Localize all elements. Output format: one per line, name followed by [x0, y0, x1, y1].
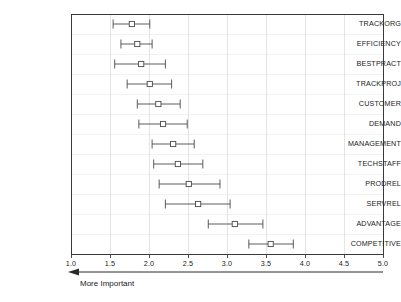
- data-point-group: [165, 200, 230, 209]
- y-axis-category-label: SERVREL: [335, 200, 401, 207]
- x-axis-tick-label: 1.0: [66, 260, 76, 267]
- x-axis-tick-label: 2.5: [183, 260, 193, 267]
- y-axis-category-label: TRACKPROJ: [335, 80, 401, 87]
- data-point-group: [159, 180, 220, 189]
- mean-marker: [196, 201, 201, 206]
- mean-marker: [129, 21, 134, 26]
- more-important-caption: More Important: [80, 280, 134, 288]
- x-axis-tick-label: 5.0: [378, 260, 388, 267]
- data-point-group: [113, 20, 150, 29]
- error-bar-chart: TRACKORGEFFICIENCYBESTPRACTTRACKPROJCUST…: [0, 0, 401, 302]
- y-axis-category-label: TRACKORG: [335, 20, 401, 27]
- y-axis-category-label: ADVANTAGE: [335, 220, 401, 227]
- data-point-group: [137, 100, 180, 109]
- mean-marker: [232, 221, 237, 226]
- data-point-group: [121, 40, 152, 49]
- mean-marker: [147, 81, 152, 86]
- y-axis-category-label: COMPETITIVE: [335, 240, 401, 247]
- x-axis-tick-label: 4.5: [339, 260, 349, 267]
- data-point-group: [154, 160, 203, 169]
- data-point-group: [208, 220, 263, 229]
- x-axis-tick-label: 3.0: [222, 260, 232, 267]
- x-axis-tick-label: 1.5: [105, 260, 115, 267]
- y-axis-category-label: EFFICIENCY: [335, 40, 401, 47]
- data-point-group: [139, 120, 187, 129]
- y-axis-category-label: MANAGEMENT: [335, 140, 401, 147]
- x-axis-tick-label: 3.5: [261, 260, 271, 267]
- data-point-group: [249, 240, 293, 249]
- data-point-group: [127, 80, 171, 89]
- more-important-arrow-head: [68, 268, 79, 275]
- data-point-group: [115, 60, 166, 69]
- mean-marker: [156, 101, 161, 106]
- y-axis-category-label: PRODREL: [335, 180, 401, 187]
- mean-marker: [175, 161, 180, 166]
- x-axis-tick-label: 2.0: [144, 260, 154, 267]
- mean-marker: [139, 61, 144, 66]
- x-axis-tick-label: 4.0: [300, 260, 310, 267]
- mean-marker: [171, 141, 176, 146]
- y-axis-category-label: TECHSTAFF: [335, 160, 401, 167]
- mean-marker: [186, 181, 191, 186]
- y-axis-category-label: BESTPRACT: [335, 60, 401, 67]
- y-axis-category-label: DEMAND: [335, 120, 401, 127]
- mean-marker: [160, 121, 165, 126]
- y-axis-category-label: CUSTOMER: [335, 100, 401, 107]
- mean-marker: [268, 241, 273, 246]
- mean-marker: [135, 41, 140, 46]
